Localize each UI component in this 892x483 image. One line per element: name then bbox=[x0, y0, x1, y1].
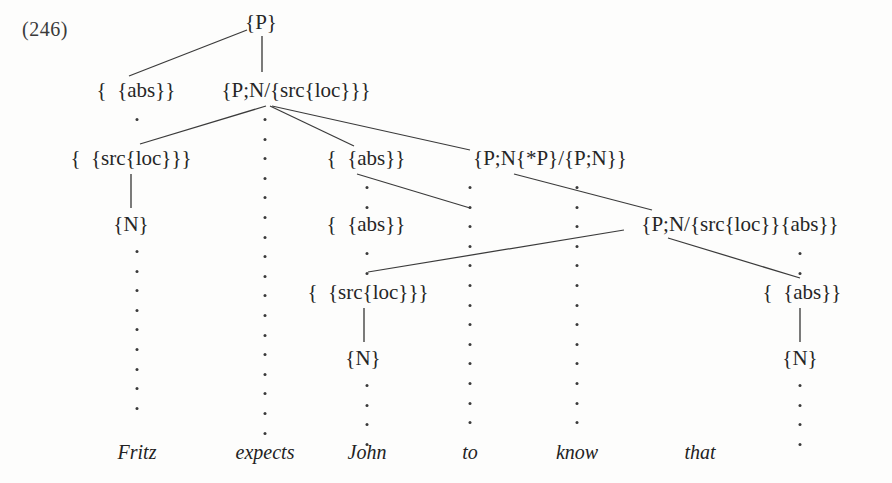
terminal-word: Fritz bbox=[118, 442, 157, 462]
dot bbox=[366, 272, 369, 275]
dot bbox=[264, 177, 267, 180]
tree-node-label: {P;N/{src{loc}}{abs}} bbox=[641, 214, 838, 235]
tree-node-label: {N} bbox=[345, 348, 380, 369]
dot bbox=[366, 404, 369, 407]
dot bbox=[366, 423, 369, 426]
dot bbox=[264, 216, 267, 219]
dotted-continuation-column bbox=[136, 250, 139, 426]
dot bbox=[366, 206, 369, 209]
terminal-word: John bbox=[348, 442, 387, 462]
dot bbox=[136, 348, 139, 351]
dot bbox=[576, 225, 579, 228]
derivation-figure: (246) {P}{ {abs}}{P;N/{src{loc}}}{ {src{… bbox=[0, 0, 892, 483]
tree-edges-layer bbox=[0, 0, 892, 483]
dot bbox=[136, 118, 139, 121]
dot bbox=[469, 304, 472, 307]
dot bbox=[469, 284, 472, 287]
dotted-continuation-column bbox=[264, 118, 267, 451]
tree-node-label: { {src{loc}}} bbox=[307, 282, 428, 303]
dot bbox=[469, 421, 472, 424]
dot bbox=[469, 382, 472, 385]
dot bbox=[264, 196, 267, 199]
tree-node-label: { {abs}} bbox=[97, 80, 176, 101]
tree-edge bbox=[129, 30, 247, 76]
dot bbox=[469, 362, 472, 365]
dot bbox=[576, 304, 579, 307]
dot bbox=[576, 186, 579, 189]
dot bbox=[469, 245, 472, 248]
dot bbox=[576, 421, 579, 424]
tree-edge bbox=[368, 230, 624, 272]
tree-node-label: {N} bbox=[113, 214, 148, 235]
dot bbox=[576, 323, 579, 326]
tree-edge bbox=[140, 106, 266, 144]
dot bbox=[264, 314, 267, 317]
dot bbox=[366, 252, 369, 255]
tree-node-label: { {src{loc}}} bbox=[70, 148, 191, 169]
dot bbox=[799, 384, 802, 387]
tree-edge bbox=[270, 106, 354, 146]
dot bbox=[576, 362, 579, 365]
tree-node-label: {P;N/{src{loc}}} bbox=[221, 80, 370, 101]
dot bbox=[264, 294, 267, 297]
dot bbox=[469, 264, 472, 267]
tree-node-label: { {abs}} bbox=[327, 214, 406, 235]
dot bbox=[264, 392, 267, 395]
dot bbox=[136, 387, 139, 390]
dot bbox=[264, 353, 267, 356]
dot bbox=[576, 382, 579, 385]
terminal-word: to bbox=[462, 442, 478, 462]
tree-node-label: {P} bbox=[245, 12, 277, 33]
dot bbox=[136, 250, 139, 253]
tree-edge bbox=[272, 106, 470, 150]
dot bbox=[136, 309, 139, 312]
dot bbox=[264, 334, 267, 337]
dot bbox=[469, 225, 472, 228]
dot bbox=[799, 404, 802, 407]
tree-edge bbox=[357, 174, 470, 208]
dot bbox=[264, 412, 267, 415]
dot bbox=[576, 245, 579, 248]
dot bbox=[264, 432, 267, 435]
dot bbox=[799, 252, 802, 255]
dot bbox=[264, 373, 267, 376]
terminal-word: that bbox=[684, 442, 715, 462]
dot bbox=[136, 289, 139, 292]
tree-node-label: {N} bbox=[782, 348, 817, 369]
tree-node-label: {P;N{*P}/{P;N}} bbox=[473, 148, 627, 169]
tree-node-label: { {abs}} bbox=[327, 148, 406, 169]
tree-edge bbox=[514, 174, 652, 210]
dot bbox=[264, 118, 267, 121]
dot bbox=[264, 138, 267, 141]
dot bbox=[264, 275, 267, 278]
dot bbox=[136, 407, 139, 410]
dot bbox=[576, 402, 579, 405]
dotted-continuation-column bbox=[799, 384, 802, 462]
dotted-continuation-column bbox=[469, 186, 472, 441]
dot bbox=[469, 323, 472, 326]
terminal-word: expects bbox=[236, 442, 295, 462]
dot bbox=[366, 384, 369, 387]
tree-edge bbox=[668, 238, 800, 278]
tree-node-label: { {abs}} bbox=[763, 282, 842, 303]
dot bbox=[136, 270, 139, 273]
dot bbox=[576, 206, 579, 209]
dotted-continuation-column bbox=[576, 186, 579, 441]
dot bbox=[136, 368, 139, 371]
dot bbox=[576, 264, 579, 267]
dot bbox=[264, 157, 267, 160]
dot bbox=[136, 328, 139, 331]
dotted-continuation-column bbox=[136, 118, 139, 138]
terminal-word: know bbox=[556, 442, 598, 462]
dot bbox=[264, 255, 267, 258]
dot bbox=[799, 443, 802, 446]
dot bbox=[469, 206, 472, 209]
dot bbox=[469, 402, 472, 405]
dot bbox=[576, 343, 579, 346]
dot bbox=[799, 272, 802, 275]
dot bbox=[576, 284, 579, 287]
dot bbox=[366, 186, 369, 189]
dot bbox=[469, 343, 472, 346]
dot bbox=[799, 423, 802, 426]
dot bbox=[469, 186, 472, 189]
